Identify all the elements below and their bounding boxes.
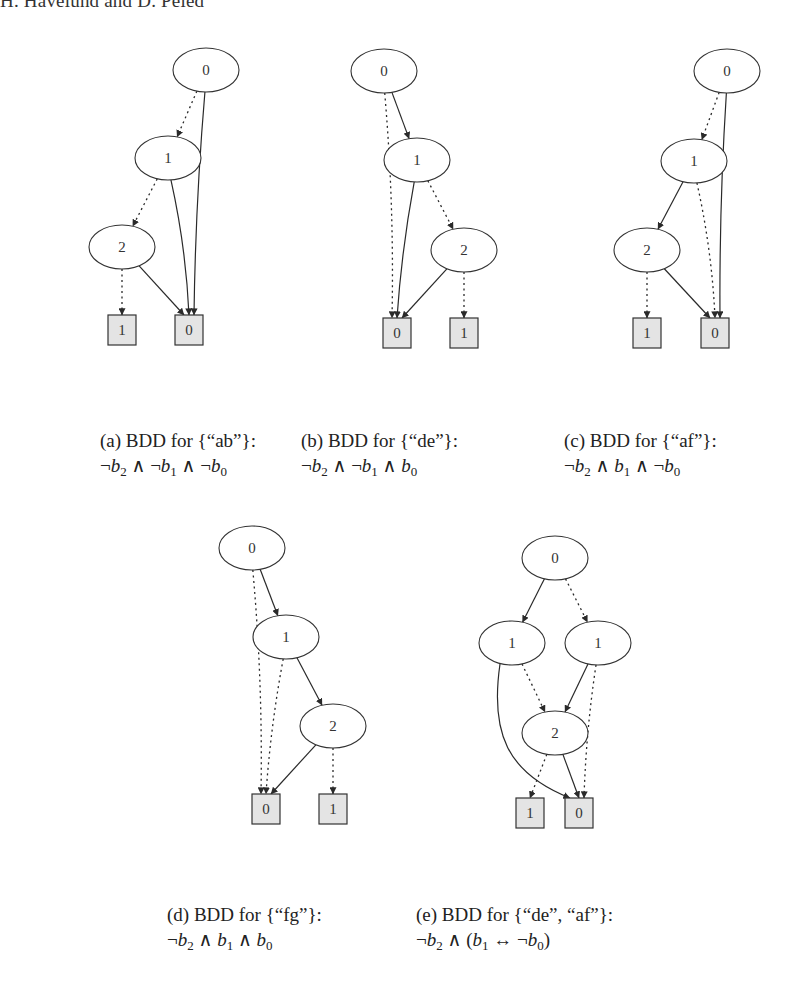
caption-d-formula: ¬b2 ∧ b1 ∧ b0 [167,927,322,952]
terminal-node-0: 0 [252,794,280,824]
low-edge-n0-n1 [177,91,197,137]
svg-text:2: 2 [460,242,468,258]
svg-text:1: 1 [164,150,172,166]
terminal-node-1: 1 [108,315,136,345]
svg-text:0: 0 [711,325,719,341]
caption-e-formula: ¬b2 ∧ (b1 ↔ ¬b0) [416,927,613,952]
high-edge-n1-n2 [658,182,683,229]
variable-node-1: 1 [661,139,727,183]
variable-node-2: 2 [431,228,497,272]
svg-text:1: 1 [329,801,337,817]
low-edge-n1-t0 [697,183,715,318]
caption-a-formula: ¬b2 ∧ ¬b1 ∧ ¬b0 [100,453,256,478]
svg-text:1: 1 [413,152,421,168]
variable-node-1: 1 [479,621,545,665]
variable-node-0: 0 [219,526,285,570]
svg-text:1: 1 [118,322,126,338]
terminal-node-1: 1 [319,794,347,824]
high-edge-n0-n1 [392,92,409,138]
high-edge-n0-n1 [260,569,278,615]
variable-node-2: 2 [300,704,366,748]
svg-text:0: 0 [185,322,193,338]
high-edge-n0-n1a [523,579,545,622]
caption-d-title: (d) BDD for {“fg”}: [167,902,322,927]
low-edge-n1-n2 [133,179,157,226]
terminal-node-1: 1 [516,798,544,828]
low-edge-n0-n1b [566,579,588,622]
variable-node-1: 1 [253,615,319,659]
low-edge-n0-n1 [702,92,719,139]
svg-text:1: 1 [690,153,698,169]
high-edge-n2-t0 [139,266,184,315]
svg-text:0: 0 [262,801,270,817]
svg-text:0: 0 [380,63,388,79]
high-edge-n1-n2 [297,658,322,705]
svg-text:0: 0 [575,805,583,821]
low-edge-n2-t1 [530,754,547,798]
svg-text:0: 0 [202,62,210,78]
svg-text:2: 2 [643,242,651,258]
caption-b-formula: ¬b2 ∧ ¬b1 ∧ b0 [301,453,458,478]
low-edge-n1-n2 [428,181,453,229]
svg-text:2: 2 [329,718,337,734]
svg-text:0: 0 [393,325,401,341]
terminal-node-1: 1 [633,318,661,348]
caption-c-formula: ¬b2 ∧ b1 ∧ ¬b0 [564,453,717,478]
caption-b: (b) BDD for {“de”}: ¬b2 ∧ ¬b1 ∧ b0 [301,428,458,478]
high-edge-n1-t0 [397,182,414,318]
bdd-figure-canvas: 01210012010121001201011210 [0,0,803,985]
caption-e-title: (e) BDD for {“de”, “af”}: [416,902,613,927]
low-edge-n1a-n2 [522,664,545,712]
low-edge-n0-t0 [385,93,393,318]
high-edge-n2-t0 [664,269,710,318]
high-edge-n0-t0 [194,92,205,315]
variable-node-0: 0 [694,49,760,93]
svg-text:2: 2 [118,239,126,255]
svg-text:0: 0 [248,540,256,556]
caption-b-title: (b) BDD for {“de”}: [301,428,458,453]
variable-node-0: 0 [173,48,239,92]
high-edge-n2-t0 [563,754,579,798]
caption-e: (e) BDD for {“de”, “af”}: ¬b2 ∧ (b1 ↔ ¬b… [416,902,613,952]
high-edge-n2-t0 [271,745,316,794]
svg-text:0: 0 [723,63,731,79]
low-edge-n0-t0 [253,570,261,794]
svg-text:2: 2 [551,725,559,741]
caption-c-title: (c) BDD for {“af”}: [564,428,717,453]
high-edge-n2-t0 [402,269,447,318]
low-edge-n1-t0 [266,659,283,794]
variable-node-0: 0 [351,49,417,93]
svg-text:1: 1 [460,325,468,341]
svg-text:1: 1 [526,805,534,821]
variable-node-1: 1 [565,621,631,665]
terminal-node-0: 0 [383,318,411,348]
caption-a-title: (a) BDD for {“ab”}: [100,428,256,453]
high-edge-n1-t0 [171,180,189,315]
svg-text:0: 0 [551,550,559,566]
svg-text:1: 1 [643,325,651,341]
svg-text:1: 1 [282,629,290,645]
caption-c: (c) BDD for {“af”}: ¬b2 ∧ b1 ∧ ¬b0 [564,428,717,478]
svg-text:1: 1 [594,635,602,651]
high-edge-n0-t0 [720,93,726,318]
high-edge-n1b-n2 [565,664,588,712]
caption-a: (a) BDD for {“ab”}: ¬b2 ∧ ¬b1 ∧ ¬b0 [100,428,256,478]
terminal-node-0: 0 [175,315,203,345]
svg-text:1: 1 [508,635,516,651]
variable-node-1: 1 [384,138,450,182]
variable-node-0: 0 [522,536,588,580]
terminal-node-1: 1 [450,318,478,348]
variable-node-1: 1 [135,136,201,180]
terminal-node-0: 0 [565,798,593,828]
caption-d: (d) BDD for {“fg”}: ¬b2 ∧ b1 ∧ b0 [167,902,322,952]
terminal-node-0: 0 [701,318,729,348]
variable-node-2: 2 [522,711,588,755]
variable-node-2: 2 [89,225,155,269]
variable-node-2: 2 [614,228,680,272]
